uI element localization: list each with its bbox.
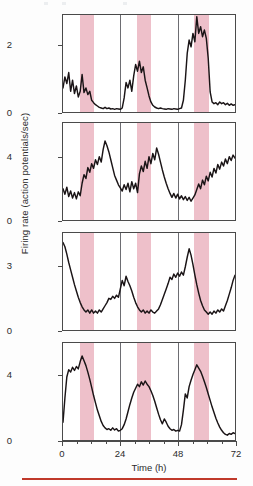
x-major-tick-48 <box>178 441 179 446</box>
x-axis-label: Time (h) <box>62 462 236 473</box>
x-minor-tick-12 <box>91 441 92 444</box>
cropped-artifact <box>44 2 48 5</box>
chart-panel-4 <box>62 342 236 441</box>
y-tick-mark-p2-4 <box>58 157 62 158</box>
chart-panel-1 <box>62 14 236 113</box>
trace-line-3 <box>63 233 235 330</box>
x-tick-label-72: 72 <box>221 448 251 459</box>
y-tick-label-p2-0: 0 <box>0 215 12 226</box>
y-tick-label-p3-0: 0 <box>0 325 12 336</box>
x-minor-tick-42 <box>164 441 165 444</box>
red-horizontal-rule <box>22 478 237 480</box>
trace-line-2 <box>63 123 235 220</box>
cropped-artifact <box>62 2 66 5</box>
trace-line-1 <box>63 15 235 112</box>
y-tick-label-p3-3: 3 <box>0 260 12 271</box>
x-minor-tick-66 <box>222 441 223 444</box>
y-tick-mark-p4-4 <box>58 375 62 376</box>
y-tick-mark-p3-0 <box>58 331 62 332</box>
chart-panel-2 <box>62 122 236 221</box>
x-tick-label-0: 0 <box>47 448 77 459</box>
y-tick-mark-p1-2 <box>58 45 62 46</box>
x-minor-tick-60 <box>207 441 208 444</box>
y-tick-label-p2-4: 4 <box>0 151 12 162</box>
trace-line-4 <box>63 343 235 440</box>
x-major-tick-72 <box>236 441 237 446</box>
y-tick-label-p4-4: 4 <box>0 369 12 380</box>
chart-panel-3 <box>62 232 236 331</box>
y-tick-mark-p2-0 <box>58 221 62 222</box>
y-tick-mark-p1-0 <box>58 113 62 114</box>
y-tick-mark-p3-3 <box>58 266 62 267</box>
firing-rate-figure: Firing rate (action potentials/sec) 0204… <box>0 0 253 486</box>
y-tick-label-p1-0: 0 <box>0 107 12 118</box>
x-minor-tick-36 <box>149 441 150 444</box>
x-minor-tick-30 <box>135 441 136 444</box>
x-minor-tick-6 <box>77 441 78 444</box>
x-major-tick-24 <box>120 441 121 446</box>
x-tick-label-24: 24 <box>105 448 135 459</box>
x-minor-tick-54 <box>193 441 194 444</box>
y-tick-label-p1-2: 2 <box>0 39 12 50</box>
x-tick-label-48: 48 <box>163 448 193 459</box>
x-major-tick-0 <box>62 441 63 446</box>
x-minor-tick-18 <box>106 441 107 444</box>
cropped-artifact <box>123 2 127 5</box>
y-axis-label: Firing rate (action potentials/sec) <box>19 74 30 294</box>
y-tick-label-p4-0: 0 <box>0 435 12 446</box>
